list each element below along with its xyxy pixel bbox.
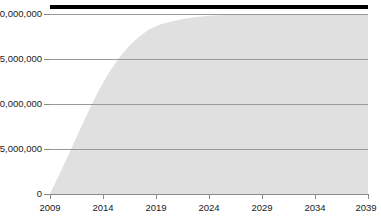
x-tick-2024 — [209, 194, 210, 199]
x-axis-label-2019: 2019 — [136, 203, 176, 213]
gridline-20000000 — [50, 14, 368, 15]
y-axis-label-15000000: 15,000,000 — [0, 54, 42, 64]
gridline-5000000 — [50, 149, 368, 150]
x-tick-2014 — [103, 194, 104, 199]
x-tick-2034 — [315, 194, 316, 199]
y-axis-label-10000000: 10,000,000 — [0, 99, 42, 109]
x-axis-label-2024: 2024 — [189, 203, 229, 213]
x-tick-2019 — [156, 194, 157, 199]
x-axis-label-2014: 2014 — [83, 203, 123, 213]
x-axis-label-2009: 2009 — [30, 203, 70, 213]
reference-line — [50, 5, 368, 9]
y-axis-label-0: 0 — [37, 189, 42, 199]
x-tick-2009 — [50, 194, 51, 199]
y-axis-label-20000000: 20,000,000 — [0, 9, 42, 19]
x-axis-label-2029: 2029 — [242, 203, 282, 213]
y-tick-20000000 — [44, 14, 50, 15]
x-axis-label-2039: 2039 — [346, 203, 381, 213]
y-tick-10000000 — [44, 104, 50, 105]
gridline-15000000 — [50, 59, 368, 60]
x-tick-2029 — [262, 194, 263, 199]
y-tick-5000000 — [44, 149, 50, 150]
x-axis-label-2034: 2034 — [295, 203, 335, 213]
y-tick-15000000 — [44, 59, 50, 60]
gridline-10000000 — [50, 104, 368, 105]
y-axis-label-5000000: 5,000,000 — [0, 144, 42, 154]
plot-area — [50, 0, 368, 194]
x-tick-2039 — [368, 194, 369, 199]
